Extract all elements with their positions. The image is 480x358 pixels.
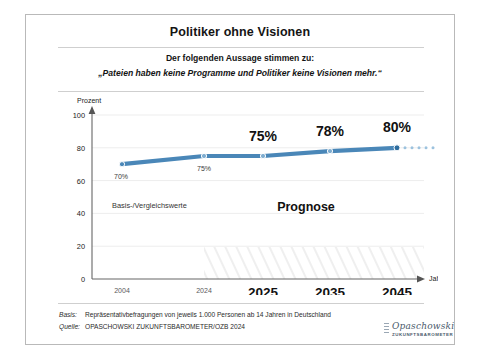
x-axis-label: Jahre	[429, 275, 438, 282]
x-tick-2004: 2004	[114, 287, 130, 294]
line-chart: Prozent Jahre 0 20 40 60 80 100 2004 202…	[44, 97, 438, 295]
footer-quelle-row: Quelle:OPASCHOWSKI ZUKUNFTSBAROMETER/OZB…	[59, 321, 379, 333]
annotation-basis: Basis-/Vergleichswerte	[112, 201, 187, 210]
y-tick-100: 100	[73, 111, 85, 120]
logo-subtitle: ZUKUNFTSBAROMETER	[392, 332, 453, 337]
x-tick-2035: 2035	[315, 285, 346, 295]
x-tick-2024: 2024	[196, 287, 212, 294]
y-axis-arrow	[89, 106, 96, 114]
value-label-2045: 80%	[383, 119, 412, 135]
subtitle: Der folgenden Aussage stimmen zu:	[26, 53, 454, 63]
logo-name: Opaschowski	[392, 321, 454, 331]
footer-basis-key: Basis:	[59, 309, 85, 321]
y-tick-0: 0	[81, 275, 85, 284]
footer-notes: Basis:Repräsentativbefragungen von jewei…	[59, 309, 379, 332]
slide-frame: Politiker ohne Visionen Der folgenden Au…	[25, 14, 455, 345]
logo-bars-icon	[384, 323, 389, 335]
value-label-2004: 70%	[114, 173, 128, 180]
divider-footer	[58, 303, 424, 304]
opaschowski-logo: Opaschowski ZUKUNFTSBAROMETER	[384, 321, 456, 343]
forecast-hatch-band	[204, 247, 424, 279]
x-tick-2025: 2025	[248, 285, 279, 295]
footer-basis-text: Repräsentativbefragungen von jeweils 1.0…	[85, 311, 331, 318]
annotation-prognose: Prognose	[277, 200, 335, 214]
y-tick-40: 40	[77, 209, 85, 218]
footer-basis-row: Basis:Repräsentativbefragungen von jewei…	[59, 309, 379, 321]
quote-statement: „Pateien haben keine Programme und Polit…	[26, 68, 454, 78]
footer-quelle-text: OPASCHOWSKI ZUKUNFTSBAROMETER/OZB 2024	[85, 323, 245, 330]
divider-top	[58, 47, 424, 48]
value-label-2024: 75%	[197, 165, 211, 172]
footer-quelle-key: Quelle:	[59, 321, 85, 333]
value-label-2025: 75%	[249, 128, 278, 144]
y-tick-80: 80	[77, 144, 85, 153]
divider-bottom	[58, 91, 424, 92]
y-axis-label: Prozent	[77, 97, 101, 104]
page-title: Politiker ohne Visionen	[26, 25, 454, 39]
y-tick-20: 20	[77, 242, 85, 251]
x-tick-2045: 2045	[382, 285, 413, 295]
y-tick-60: 60	[77, 177, 85, 186]
value-label-2035: 78%	[316, 123, 345, 139]
